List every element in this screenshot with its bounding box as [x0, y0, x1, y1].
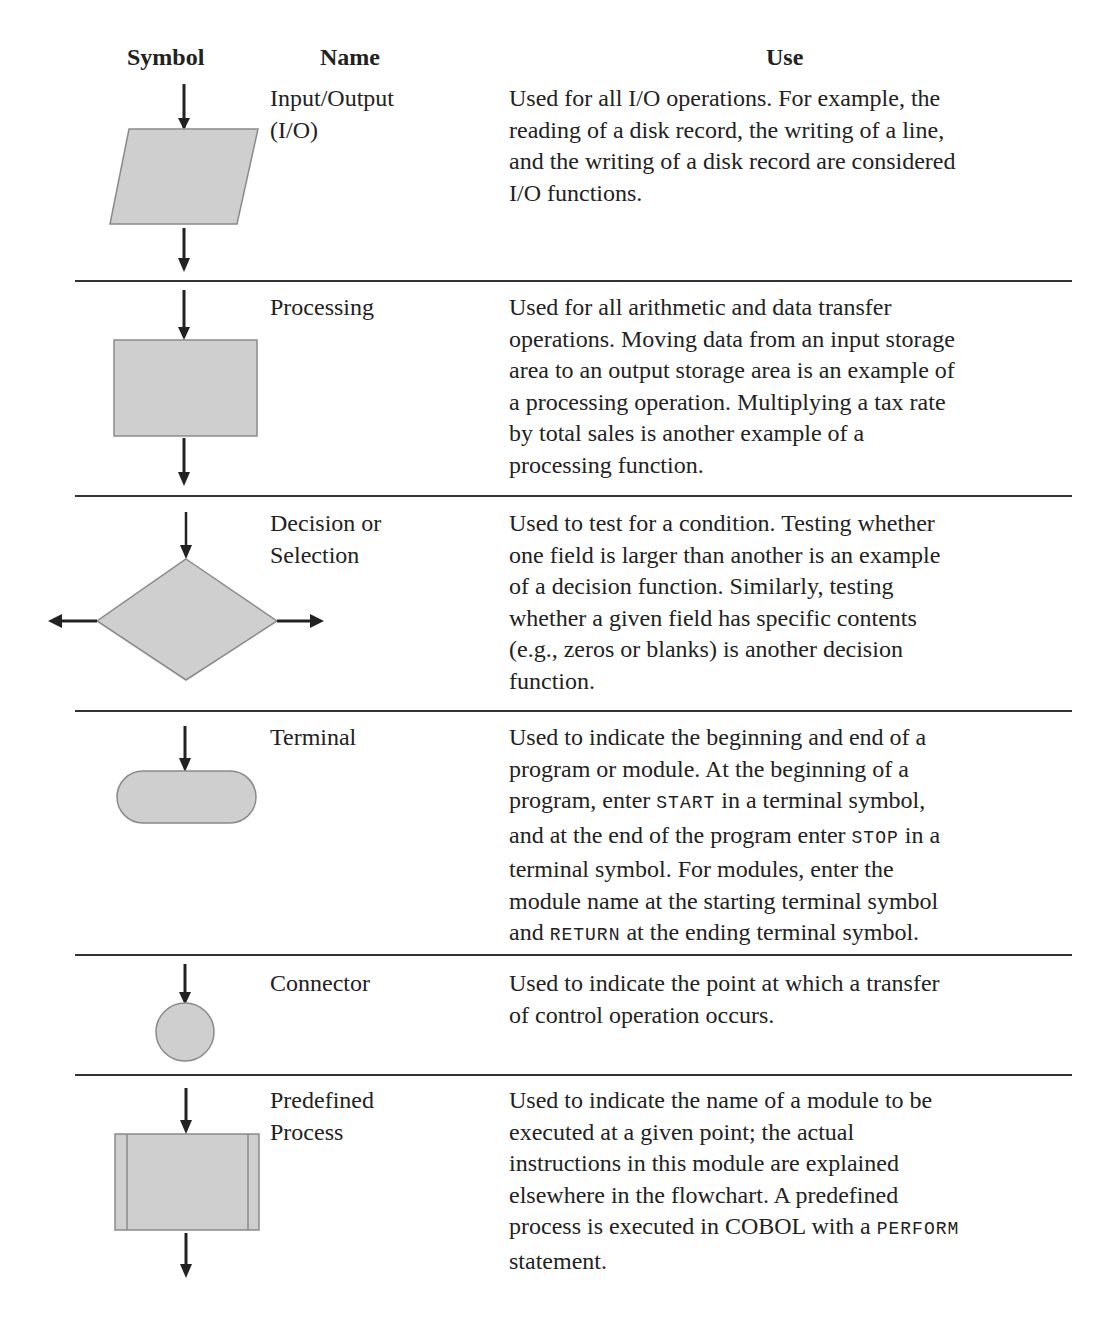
- use-terminal: Used to indicate the beginning and end o…: [509, 722, 1079, 952]
- parallelogram-io-icon: [110, 84, 258, 272]
- use-input-output: Used for all I/O operations. For example…: [509, 83, 1079, 209]
- row-divider: [75, 1074, 1072, 1076]
- name-processing: Processing: [270, 292, 490, 324]
- name-decision: Decision or Selection: [270, 508, 490, 571]
- row-divider: [75, 495, 1072, 497]
- name-input-output: Input/Output (I/O): [270, 83, 490, 146]
- use-connector: Used to indicate the point at which a tr…: [509, 968, 1079, 1031]
- row-divider: [75, 280, 1072, 282]
- row-divider: [75, 710, 1072, 712]
- use-decision: Used to test for a condition. Testing wh…: [509, 508, 1079, 697]
- row-divider: [75, 954, 1072, 956]
- code-start: START: [656, 793, 715, 813]
- rectangle-process-icon: [114, 290, 257, 486]
- name-predefined-process: Predefined Process: [270, 1085, 490, 1148]
- circle-connector-icon: [156, 964, 214, 1061]
- name-connector: Connector: [270, 968, 490, 1000]
- code-stop: STOP: [852, 828, 899, 848]
- use-predefined-process: Used to indicate the name of a module to…: [509, 1085, 1079, 1277]
- name-terminal: Terminal: [270, 722, 490, 754]
- predefined-process-icon: [115, 1088, 259, 1278]
- rounded-terminal-icon: [117, 726, 256, 823]
- code-return: RETURN: [550, 925, 621, 945]
- use-processing: Used for all arithmetic and data transfe…: [509, 292, 1079, 481]
- code-perform: PERFORM: [877, 1219, 960, 1239]
